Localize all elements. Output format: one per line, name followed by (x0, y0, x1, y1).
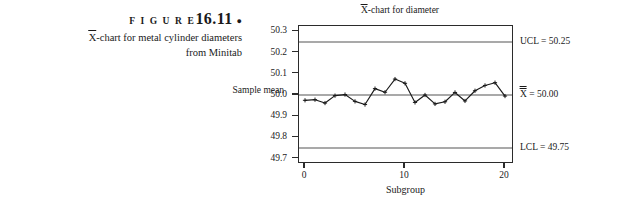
plot-inner (299, 26, 512, 162)
lcl-annotation: LCL = 49.75 (520, 142, 569, 152)
y-axis-tick (292, 115, 298, 116)
y-axis-tick (292, 30, 298, 31)
figure-number: 16.11 (195, 10, 232, 27)
y-axis-tick (292, 136, 298, 137)
chart-title: X-chart for diameter (250, 5, 550, 15)
y-axis-tick-label: 49.7 (243, 153, 287, 163)
y-axis-tick (292, 157, 298, 158)
x-letter: X (361, 5, 368, 15)
x-axis-tick-label: 10 (399, 170, 409, 180)
ucl-annotation: UCL = 50.25 (520, 36, 570, 46)
overbar-upper (520, 86, 527, 87)
figure-label: F I G U R E (129, 16, 195, 26)
x-axis-tick (403, 163, 404, 168)
figure-caption: F I G U R E16.11 ● X-chart for metal cyl… (14, 8, 242, 60)
chart-title-rest: -chart for diameter (368, 5, 439, 15)
y-axis-tick-label: 50.2 (243, 47, 287, 57)
x-letter: X (520, 89, 527, 99)
overbar (89, 30, 97, 31)
x-axis-tick-label: 0 (302, 170, 307, 180)
center-annotation-value: = 50.00 (527, 89, 558, 99)
x-bar-symbol-title: X (361, 5, 368, 15)
caption-line1-rest: -chart for metal cylinder diameters (96, 32, 242, 43)
series-markers (303, 77, 507, 107)
y-axis-tick (292, 93, 298, 94)
y-axis-tick-label: 50.3 (243, 25, 287, 35)
bullet-icon: ● (237, 16, 242, 26)
plot-area (298, 25, 513, 163)
x-bar-symbol: X (89, 31, 97, 45)
x-double-bar-symbol: X (520, 89, 527, 99)
x-axis-tick (503, 163, 504, 168)
chart-panel: X-chart for diameter Sample mean 50.350.… (250, 0, 617, 205)
overbar-lower (520, 88, 527, 89)
center-line-annotation: X = 50.00 (520, 89, 558, 99)
y-axis-tick-label: 50.0 (243, 89, 287, 99)
x-axis-tick (303, 163, 304, 168)
y-axis-tick-label: 49.8 (243, 131, 287, 141)
y-axis-tick-label: 50.1 (243, 68, 287, 78)
y-axis-tick (292, 51, 298, 52)
y-axis-tick-label: 49.9 (243, 110, 287, 120)
caption-line2: from Minitab (14, 46, 242, 60)
y-axis-tick (292, 72, 298, 73)
series-plot (299, 26, 514, 164)
figure-container: F I G U R E16.11 ● X-chart for metal cyl… (0, 0, 617, 205)
figure-label-line: F I G U R E16.11 ● (14, 8, 242, 30)
overbar (361, 4, 368, 5)
x-letter: X (89, 32, 97, 43)
figure-caption-text: X-chart for metal cylinder diameters fro… (14, 31, 242, 60)
x-axis-tick-label: 20 (499, 170, 509, 180)
x-axis-title: Subgroup (298, 184, 513, 195)
